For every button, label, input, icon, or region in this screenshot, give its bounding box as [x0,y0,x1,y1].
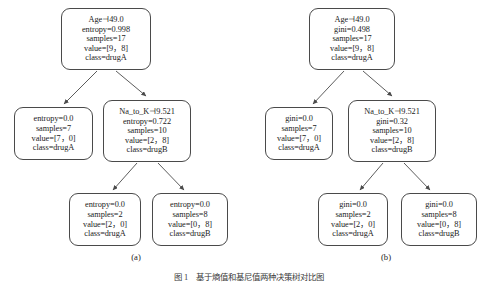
node-condition: Na_to_K⊣9.521 [119,107,175,117]
node-value: value=[2，0] [331,220,375,230]
node-class: class=drugA [332,229,373,239]
node-class: class=drugA [84,229,125,239]
node-samples: samples=2 [335,210,370,220]
node-class: class=drugA [33,143,74,153]
edge-b-root-to-right [363,71,392,96]
node-impurity: gini=0.498 [334,25,370,35]
decision-tree-figure: Age⊣49.0 entropy=0.998 samples=17 value=… [0,0,498,282]
node-impurity: gini=0.32 [376,117,408,127]
node-impurity: gini=0.0 [425,200,453,210]
node-value: value=[9，8] [330,44,374,54]
node-class: class=drugB [372,145,413,155]
node-condition: Age⊣49.0 [88,15,123,25]
figure-caption: 图 1 基于熵值和基尼值两种决策树对比图 [0,270,498,282]
node-class: class=drugB [170,229,211,239]
node-value: value=[2，0] [83,220,127,230]
tree-b-right-decision-node: Na_to_K⊣9.521 gini=0.32 samples=10 value… [348,100,436,162]
node-impurity: entropy=0.0 [34,114,74,124]
node-value: value=[2，8] [370,136,414,146]
node-impurity: entropy=0.0 [85,200,125,210]
node-condition: Na_to_K⊣9.521 [364,107,420,117]
node-class: class=drugA [278,143,319,153]
node-value: value=[0，8] [417,220,461,230]
node-samples: samples=7 [281,124,316,134]
tree-b-leaf-rr-node: gini=0.0 samples=8 value=[0，8] class=dru… [401,193,477,246]
tree-a-leaf-rr-node: entropy=0.0 samples=8 value=[0，8] class=… [152,193,228,246]
node-value: value=[7，0] [277,134,321,144]
edge-b-node-to-leaf-left [360,163,383,190]
tree-a-left-leaf-node: entropy=0.0 samples=7 value=[7，0] class=… [14,107,93,160]
node-impurity: entropy=0.722 [123,117,171,127]
subfigure-b-label: (b) [356,252,416,262]
node-impurity: gini=0.0 [339,200,367,210]
node-condition: Age⊣49.0 [334,15,369,25]
figure-caption-label: 图 [174,273,182,282]
node-value: value=[2，8] [125,136,169,146]
node-class: class=drugB [419,229,460,239]
node-impurity: entropy=0.0 [170,200,210,210]
node-samples: samples=2 [87,210,122,220]
tree-b-left-leaf-node: gini=0.0 samples=7 value=[7，0] class=dru… [265,107,333,160]
tree-a-right-decision-node: Na_to_K⊣9.521 entropy=0.722 samples=10 v… [103,100,191,162]
edge-b-node-to-leaf-right [404,163,430,190]
tree-a-leaf-rl-node: entropy=0.0 samples=2 value=[2，0] class=… [69,193,141,246]
node-samples: samples=8 [172,210,207,220]
edge-a-node-to-leaf-right [158,163,184,190]
edge-a-root-to-right [116,71,146,96]
edge-a-node-to-leaf-left [113,163,137,190]
node-class: class=drugA [85,53,126,63]
tree-b-leaf-rl-node: gini=0.0 samples=2 value=[2，0] class=dru… [318,193,388,246]
node-samples: samples=17 [332,34,371,44]
tree-b-root-node: Age⊣49.0 gini=0.498 samples=17 value=[9，… [309,8,395,70]
node-value: value=[0，8] [168,220,212,230]
node-impurity: gini=0.0 [285,114,313,124]
node-class: class=drugA [331,53,372,63]
node-samples: samples=8 [421,210,456,220]
figure-caption-text: 基于熵值和基尼值两种决策树对比图 [196,273,324,282]
node-samples: samples=17 [86,34,125,44]
subfigure-a-label: (a) [106,252,166,262]
edge-b-root-to-left [313,71,344,104]
node-samples: samples=7 [36,124,71,134]
node-value: value=[9，8] [84,44,128,54]
edge-a-root-to-left [64,71,97,104]
node-value: value=[7，0] [32,134,76,144]
figure-caption-number: 1 [184,273,188,282]
node-class: class=drugB [127,145,168,155]
node-impurity: entropy=0.998 [82,25,130,35]
node-samples: samples=10 [372,126,411,136]
node-samples: samples=10 [127,126,166,136]
tree-a-root-node: Age⊣49.0 entropy=0.998 samples=17 value=… [61,8,151,70]
